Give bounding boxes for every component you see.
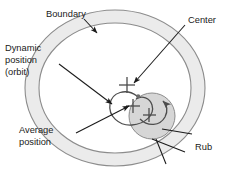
label-center: Center	[188, 15, 216, 25]
label-average-position-line1: Average	[19, 125, 53, 135]
label-average-position-line2: position	[19, 137, 51, 147]
label-dynamic-position-line2: position	[5, 55, 37, 65]
rub-circle	[129, 93, 175, 139]
orbit-endpoint-dot	[136, 94, 140, 98]
rub-circle-shape	[129, 93, 175, 139]
label-dynamic-position-line1: Dynamic	[5, 43, 42, 53]
rub-orbit-diagram: Boundary Center Dynamic position (orbit)…	[0, 0, 226, 170]
label-rub: Rub	[195, 142, 212, 152]
label-boundary: Boundary	[46, 9, 86, 19]
label-dynamic-position-line3: (orbit)	[5, 67, 29, 77]
figure-canvas: Boundary Center Dynamic position (orbit)…	[0, 0, 226, 170]
